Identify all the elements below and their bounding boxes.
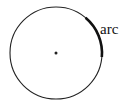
center-point <box>55 52 58 55</box>
circle-arc-diagram: arc <box>0 0 123 102</box>
arc-label: arc <box>100 21 119 37</box>
